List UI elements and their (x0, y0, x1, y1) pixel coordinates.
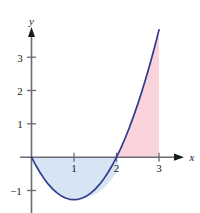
x-tick-label-3: 3 (156, 162, 162, 174)
y-axis-arrow-icon (28, 27, 35, 37)
figure-container: 3 2 1 −1 1 2 3 y x (0, 0, 200, 213)
y-axis-label: y (28, 15, 34, 27)
x-axis-arrow-icon (174, 154, 184, 161)
positive-area-region (117, 30, 160, 157)
x-tick-label-1: 1 (71, 162, 77, 174)
x-axis-label: x (189, 151, 195, 163)
y-tick-label-2: 2 (17, 85, 23, 97)
x-tick-label-2: 2 (114, 162, 120, 174)
y-tick-label-neg1: −1 (10, 185, 22, 197)
y-tick-label-1: 1 (17, 118, 23, 130)
graph-plot: 3 2 1 −1 1 2 3 y x (0, 0, 200, 213)
y-tick-label-3: 3 (17, 52, 23, 64)
